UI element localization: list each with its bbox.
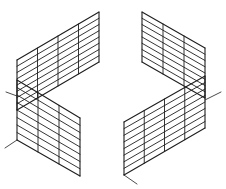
grid-row-line — [17, 95, 80, 133]
left-mid-tick — [6, 92, 17, 96]
top-right-panel — [142, 12, 205, 98]
grid-row-line — [17, 103, 80, 140]
grid-row-line — [17, 125, 80, 162]
right-axis-tick — [205, 92, 221, 100]
grid-row-line — [17, 118, 80, 155]
grid-row-line — [17, 140, 80, 176]
left-axis-tick — [5, 140, 17, 148]
grid-row-line — [17, 133, 80, 169]
bottom-right-tick — [124, 175, 137, 184]
grid-panels-diagram — [0, 0, 226, 189]
grid-row-line — [17, 88, 80, 126]
grid-row-line — [17, 110, 80, 147]
diagram-svg — [0, 0, 226, 189]
bottom-left-panel — [17, 80, 80, 176]
